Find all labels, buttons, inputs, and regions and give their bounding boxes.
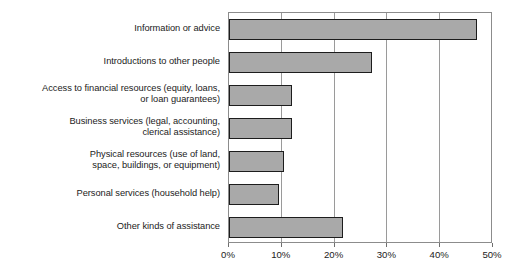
x-tickmark-50 [492,243,493,247]
x-tick-label: 0% [221,249,235,260]
category-label-column: Information or adviceIntroductions to ot… [0,12,224,243]
category-label: Other kinds of assistance [0,221,220,232]
x-tickmark-40 [439,243,440,247]
x-tickmark-20 [334,243,335,247]
x-tick-label: 50% [482,249,501,260]
x-tickmark-30 [386,243,387,247]
category-label: Information or advice [0,23,220,34]
category-label: Personal services (household help) [0,188,220,199]
x-tick-label: 30% [377,249,396,260]
bar [229,151,284,172]
bar [229,85,292,106]
gridline-20 [334,13,335,242]
category-label: Access to financial resources (equity, l… [0,83,220,106]
category-label: Introductions to other people [0,56,220,67]
bar [229,217,343,238]
x-tick-label: 10% [271,249,290,260]
x-tick-label: 40% [430,249,449,260]
gridline-40 [439,13,440,242]
bar [229,118,292,139]
x-axis-tick-labels: 0%10%20%30%40%50% [0,249,525,265]
bar [229,184,279,205]
x-tick-label: 20% [324,249,343,260]
bar-chart: Information or adviceIntroductions to ot… [0,0,525,277]
plot-area [228,12,492,243]
bar [229,19,477,40]
category-label: Physical resources (use of land, space, … [0,149,220,172]
gridline-30 [386,13,387,242]
category-label: Business services (legal, accounting, cl… [0,116,220,139]
x-tickmark-10 [281,243,282,247]
bar [229,52,372,73]
x-tickmark-0 [228,243,229,247]
